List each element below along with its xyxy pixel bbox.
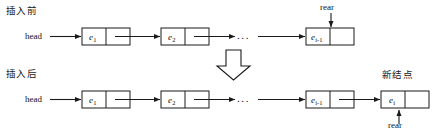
node-value-subscript: 2 [172, 99, 175, 106]
ellipsis-after: ... [237, 92, 250, 104]
node-value-subscript: 1 [93, 36, 96, 43]
caption-before-insertion: 插入前 [6, 5, 37, 16]
node-value-e2-before: e2 [168, 32, 175, 42]
node-value-subscript: 1 [93, 99, 96, 106]
caption-after-insertion: 插入后 [6, 68, 37, 79]
linked-list-insertion-diagram: 插入前 head e1 e2 ... ei-1 rear 插入后 head e1… [0, 0, 433, 131]
node-value-subscript: i [393, 99, 395, 106]
new-node-caption: 新结点 [382, 69, 413, 80]
rear-label-after: rear [388, 120, 402, 130]
head-label-after: head [25, 94, 42, 104]
node-value-ei-new: ei [389, 95, 395, 105]
node-value-subscript: i-1 [315, 36, 322, 43]
node-value-ei1-after: ei-1 [311, 95, 322, 105]
node-value-subscript: i-1 [315, 99, 322, 106]
rear-label-before: rear [320, 2, 334, 12]
node-value-e1-after: e1 [89, 95, 96, 105]
node-value-e1-before: e1 [89, 32, 96, 42]
diagram-vector-layer [0, 0, 433, 131]
node-value-e2-after: e2 [168, 95, 175, 105]
transition-block-arrow [217, 50, 250, 80]
ellipsis-before: ... [237, 29, 250, 41]
head-label-before: head [25, 31, 42, 41]
node-value-subscript: 2 [172, 36, 175, 43]
node-value-ei1-before: ei-1 [311, 32, 322, 42]
